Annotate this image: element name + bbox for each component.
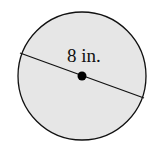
circle-diagram: 8 in.	[0, 0, 150, 151]
diameter-label: 8 in.	[67, 45, 101, 66]
center-point	[78, 72, 87, 81]
